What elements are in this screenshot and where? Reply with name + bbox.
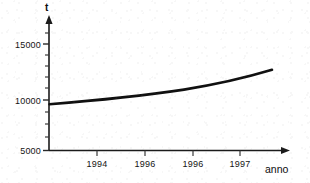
y-tick-label-5000: 5000 — [20, 146, 41, 156]
chart-canvas: 15000 10000 5000 1994 1996 1996 1997 t a… — [0, 0, 310, 183]
x-axis-title: anno — [265, 163, 289, 175]
chart-background — [0, 0, 310, 183]
x-tick-label-4: 1997 — [230, 159, 251, 169]
x-tick-label-3: 1996 — [183, 159, 204, 169]
line-chart: 15000 10000 5000 1994 1996 1996 1997 t a… — [0, 0, 310, 183]
y-tick-label-15000: 15000 — [15, 40, 41, 50]
x-tick-label-1: 1994 — [87, 159, 108, 169]
y-tick-label-10000: 10000 — [15, 96, 41, 106]
x-tick-label-2: 1996 — [135, 159, 156, 169]
